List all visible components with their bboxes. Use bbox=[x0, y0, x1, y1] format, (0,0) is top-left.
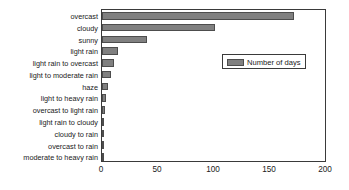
x-axis-tick-label: 100 bbox=[206, 165, 220, 174]
bar-row bbox=[102, 22, 325, 34]
bar-light-rain[interactable] bbox=[102, 47, 118, 55]
bar-sunny[interactable] bbox=[102, 36, 147, 44]
x-axis-tick-label: 200 bbox=[318, 165, 332, 174]
y-axis-tick-label: moderate to heavy rain bbox=[23, 154, 98, 162]
bar-light-rain-to-cloudy[interactable] bbox=[102, 118, 104, 126]
y-axis-tick-label: sunny bbox=[79, 37, 98, 45]
legend-swatch-number-of-days bbox=[227, 59, 244, 67]
y-axis-tick-label: light to moderate rain bbox=[29, 72, 98, 80]
bar-overcast-to-rain[interactable] bbox=[102, 141, 104, 149]
x-axis-tick-label: 150 bbox=[262, 165, 276, 174]
y-axis-tick-label: overcast to rain bbox=[48, 143, 98, 151]
y-axis-tick-label: light to heavy rain bbox=[41, 95, 98, 103]
bar-light-to-moderate-rain[interactable] bbox=[102, 71, 111, 79]
x-axis-tick-label: 50 bbox=[152, 165, 161, 174]
bar-row bbox=[102, 151, 325, 163]
y-axis-tick-label: overcast bbox=[70, 13, 98, 21]
bar-row bbox=[102, 92, 325, 104]
plot-area bbox=[101, 9, 326, 162]
bar-cloudy[interactable] bbox=[102, 24, 215, 32]
bar-overcast[interactable] bbox=[102, 12, 294, 20]
y-axis-tick-label: overcast to light rain bbox=[33, 107, 98, 115]
legend[interactable]: Number of days bbox=[222, 54, 306, 69]
x-axis-tick-label: 0 bbox=[99, 165, 104, 174]
bar-row bbox=[102, 139, 325, 151]
bar-row bbox=[102, 104, 325, 116]
bar-row bbox=[102, 128, 325, 140]
bar-row bbox=[102, 69, 325, 81]
bar-overcast-to-light-rain[interactable] bbox=[102, 106, 105, 114]
bar-chart-figure: overcast cloudy sunny light rain light r… bbox=[0, 0, 349, 190]
bar-light-to-heavy-rain[interactable] bbox=[102, 94, 106, 102]
y-axis-tick-label: light rain to overcast bbox=[33, 60, 98, 68]
bar-haze[interactable] bbox=[102, 83, 108, 91]
bar-cloudy-to-rain[interactable] bbox=[102, 130, 104, 138]
legend-label-number-of-days: Number of days bbox=[247, 58, 301, 67]
y-axis-tick-label: cloudy bbox=[77, 25, 98, 33]
y-axis-tick-label: light rain bbox=[70, 48, 98, 56]
bar-row bbox=[102, 10, 325, 22]
bar-row bbox=[102, 34, 325, 46]
bar-row bbox=[102, 81, 325, 93]
bar-moderate-to-heavy-rain[interactable] bbox=[102, 153, 104, 161]
bar-light-rain-to-overcast[interactable] bbox=[102, 59, 114, 67]
y-axis-tick-label: cloudy to rain bbox=[55, 131, 98, 139]
y-axis-tick-label: haze bbox=[82, 84, 98, 92]
y-axis-tick-label: light rain to cloudy bbox=[39, 119, 98, 127]
bar-row bbox=[102, 116, 325, 128]
